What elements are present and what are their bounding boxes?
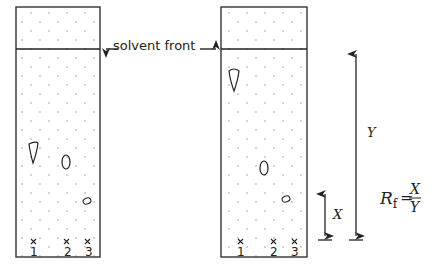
rf-symbol: Rf — [380, 188, 397, 211]
rf-denominator: Y — [410, 199, 419, 215]
x-distance-arrow — [318, 194, 332, 240]
rf-numerator: X — [410, 181, 420, 197]
spot-label-3-right: 3 — [291, 245, 299, 259]
spot-label-2-left: 2 — [64, 245, 72, 259]
left-paper-strip — [16, 7, 100, 257]
y-distance-arrow — [349, 54, 363, 240]
spot-label-3-left: 3 — [85, 245, 93, 259]
spot-label-1-left: 1 — [30, 245, 38, 259]
x-distance-label: X — [333, 207, 342, 222]
right-paper-strip — [221, 7, 307, 257]
spot-label-1-right: 1 — [237, 245, 245, 259]
y-distance-label: Y — [367, 125, 376, 140]
solvent-front-label: solvent front — [113, 38, 195, 53]
spot-label-2-right: 2 — [270, 245, 278, 259]
